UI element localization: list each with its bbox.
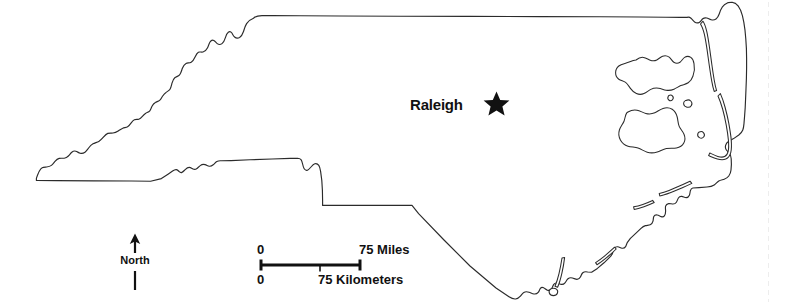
scale-bar-graphic <box>256 257 431 273</box>
scale-bar: 0 75 Miles 0 75 Kilometers <box>256 243 431 287</box>
scale-bar-kilometers-row: 0 75 Kilometers <box>256 273 431 286</box>
scale-miles-start-label: 0 <box>257 243 264 256</box>
star-icon <box>483 91 510 117</box>
scale-bar-miles-row: 0 75 Miles <box>256 243 431 256</box>
north-carolina-map: Raleigh North 0 75 Miles 0 75 Kilometers <box>0 0 789 304</box>
sound-island-b <box>698 132 705 138</box>
capital-city-label: Raleigh <box>410 97 463 112</box>
sound-island-a <box>684 100 692 107</box>
pamlico-sound-detail <box>619 108 685 153</box>
sound-island-c <box>668 95 673 100</box>
bald-head-island <box>549 288 558 295</box>
north-arrow-label: North <box>107 255 163 266</box>
scale-miles-end-label: 75 Miles <box>359 243 410 256</box>
scale-kilometers-end-label: 75 Kilometers <box>318 273 403 286</box>
scale-kilometers-start-label: 0 <box>257 273 264 286</box>
